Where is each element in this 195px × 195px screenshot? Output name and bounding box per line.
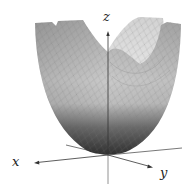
- y-axis: [108, 155, 150, 167]
- z-axis-arrowhead: [106, 31, 109, 36]
- x-axis: [37, 155, 108, 163]
- z-axis-label: z: [102, 9, 110, 24]
- x-axis-arrowhead: [34, 161, 39, 165]
- surface-plot: z x y: [0, 0, 195, 195]
- y-axis-label: y: [159, 165, 168, 180]
- paraboloid-figure: z x y: [0, 0, 195, 195]
- y-axis-arrowhead: [147, 165, 153, 169]
- x-axis-label: x: [12, 154, 20, 169]
